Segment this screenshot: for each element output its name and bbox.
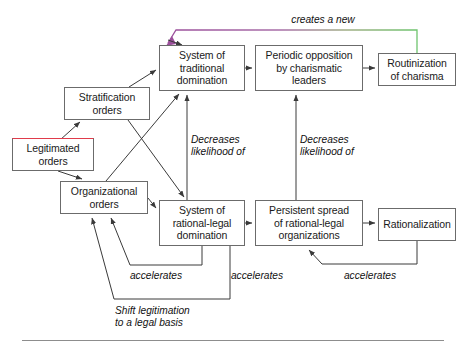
edge-label-accelerates-middle: accelerates — [224, 270, 290, 282]
connector-stratification-to-traditional — [129, 70, 156, 87]
node-stratification-orders[interactable]: Stratification orders — [64, 87, 150, 120]
node-label: Legitimated orders — [26, 142, 79, 167]
bottom-divider-rule — [22, 340, 444, 341]
edge-label-decreases-likelihood-of-right: Decreases likelihood of — [300, 134, 378, 158]
node-periodic-opposition-by-charismatic-leaders[interactable]: Periodic opposition by charismatic leade… — [255, 45, 363, 91]
node-system-of-rational-legal-domination[interactable]: System of rational-legal domination — [159, 200, 245, 246]
connector-organizational-to-rational-legal — [148, 198, 156, 208]
node-routinization-of-charisma[interactable]: Routinization of charisma — [378, 53, 456, 86]
node-label: Persistent spread of rational-legal orga… — [269, 204, 349, 241]
node-persistent-spread-of-rational-legal-organizations[interactable]: Persistent spread of rational-legal orga… — [255, 200, 363, 246]
edge-label-shift-legitimation-to-a-legal-basis: Shift legitimation to a legal basis — [115, 305, 225, 329]
node-label: Periodic opposition by charismatic leade… — [266, 49, 353, 86]
node-label: Routinization of charisma — [387, 57, 446, 82]
node-label: Stratification orders — [79, 91, 135, 116]
node-label: System of traditional domination — [177, 49, 227, 86]
edge-label-accelerates-left: accelerates — [123, 270, 189, 282]
node-label: Organizational orders — [71, 185, 137, 210]
node-legitimated-orders[interactable]: Legitimated orders — [12, 138, 94, 171]
node-rationalization[interactable]: Rationalization — [378, 208, 456, 241]
edge-label-decreases-likelihood-of-left: Decreases likelihood of — [191, 134, 269, 158]
node-label: Rationalization — [383, 218, 450, 230]
edge-label-creates-a-new: creates a new — [273, 14, 373, 26]
node-system-of-traditional-domination[interactable]: System of traditional domination — [159, 45, 245, 91]
flow-diagram-canvas: Legitimated orders Stratification orders… — [0, 0, 466, 349]
node-organizational-orders[interactable]: Organizational orders — [60, 181, 148, 214]
node-label: System of rational-legal domination — [173, 204, 232, 241]
edge-label-accelerates-right: accelerates — [337, 270, 403, 282]
connector-legitimated-to-organizational — [58, 171, 82, 179]
